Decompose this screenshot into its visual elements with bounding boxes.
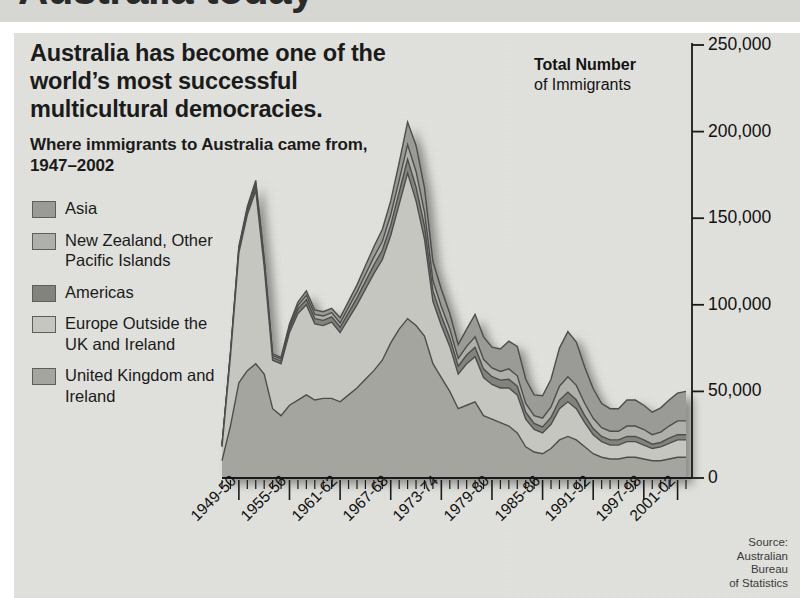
chart-panel: Australia has become one of the world’s … xyxy=(14,33,800,598)
y-tick-label: 200,000 xyxy=(708,121,771,142)
y-tick-label: 0 xyxy=(708,467,718,488)
cut-off-headline-strip: Australia today xyxy=(0,0,800,22)
infographic-page: Australia today Australia has become one… xyxy=(0,0,800,598)
y-tick-label: 250,000 xyxy=(708,34,771,55)
source-note: Source:AustralianBureauof Statistics xyxy=(729,536,788,590)
y-tick-label: 100,000 xyxy=(708,294,771,315)
y-tick-label: 150,000 xyxy=(708,207,771,228)
y-tick-label: 50,000 xyxy=(708,380,762,401)
cut-off-headline-text: Australia today xyxy=(18,0,314,14)
